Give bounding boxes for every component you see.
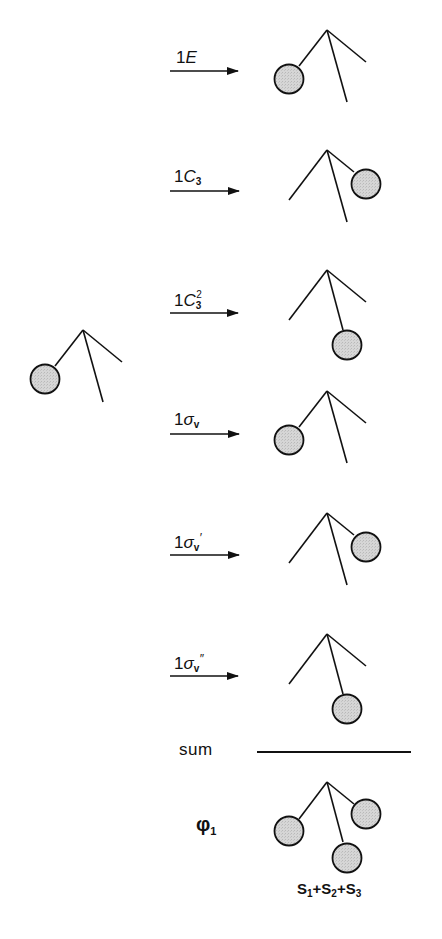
op-label-E: 1E [176, 48, 197, 68]
op-label-sigma-v: 1σv [174, 410, 199, 430]
result-figure-sigma-v [275, 391, 367, 463]
phi-symbol: φ [196, 813, 210, 835]
operation-superscript: 2 [196, 289, 202, 300]
operation-prime: ′ [199, 531, 201, 545]
operation-symbol: C [183, 291, 195, 310]
op-label-C3: 1C3 [174, 167, 201, 187]
term-2-name: S [321, 880, 331, 897]
plus-operator: + [337, 880, 346, 897]
result-figure-sigma-v-prime [289, 513, 381, 585]
operation-prime: ″ [199, 652, 203, 666]
operation-symbol: σ [183, 533, 193, 552]
diagram-canvas [0, 0, 442, 939]
operation-subscript: v [194, 419, 200, 430]
op-label-sigma-v-double-prime: 1σv″ [174, 652, 204, 674]
term-1-name: S [297, 880, 307, 897]
operation-symbol: σ [183, 410, 193, 429]
operation-symbol: C [183, 167, 195, 186]
result-figure-E [275, 30, 367, 102]
start-molecule-figure [31, 330, 123, 402]
op-label-C3-squared: 1C32 [174, 289, 202, 311]
operation-symbol: σ [183, 654, 193, 673]
term-3-name: S [346, 880, 356, 897]
salc-combination-label: S1+S2+S3 [297, 880, 361, 899]
term-3-sub: 3 [356, 888, 362, 899]
result-figure-C3-squared [289, 270, 366, 360]
result-figure-sigma-v-double-prime [289, 634, 366, 724]
result-figures [275, 30, 381, 724]
op-label-sigma-v-prime: 1σv′ [174, 531, 202, 553]
operation-subscript: 3 [196, 300, 202, 311]
operation-subscript: 3 [196, 176, 202, 187]
phi1-figure [275, 782, 381, 873]
phi-subscript: 1 [210, 825, 216, 837]
operation-symbol: E [185, 48, 196, 67]
operation-arrows [170, 71, 239, 676]
sum-label: sum [179, 740, 213, 760]
phi1-label: φ1 [196, 813, 216, 837]
result-figure-C3 [289, 150, 381, 222]
